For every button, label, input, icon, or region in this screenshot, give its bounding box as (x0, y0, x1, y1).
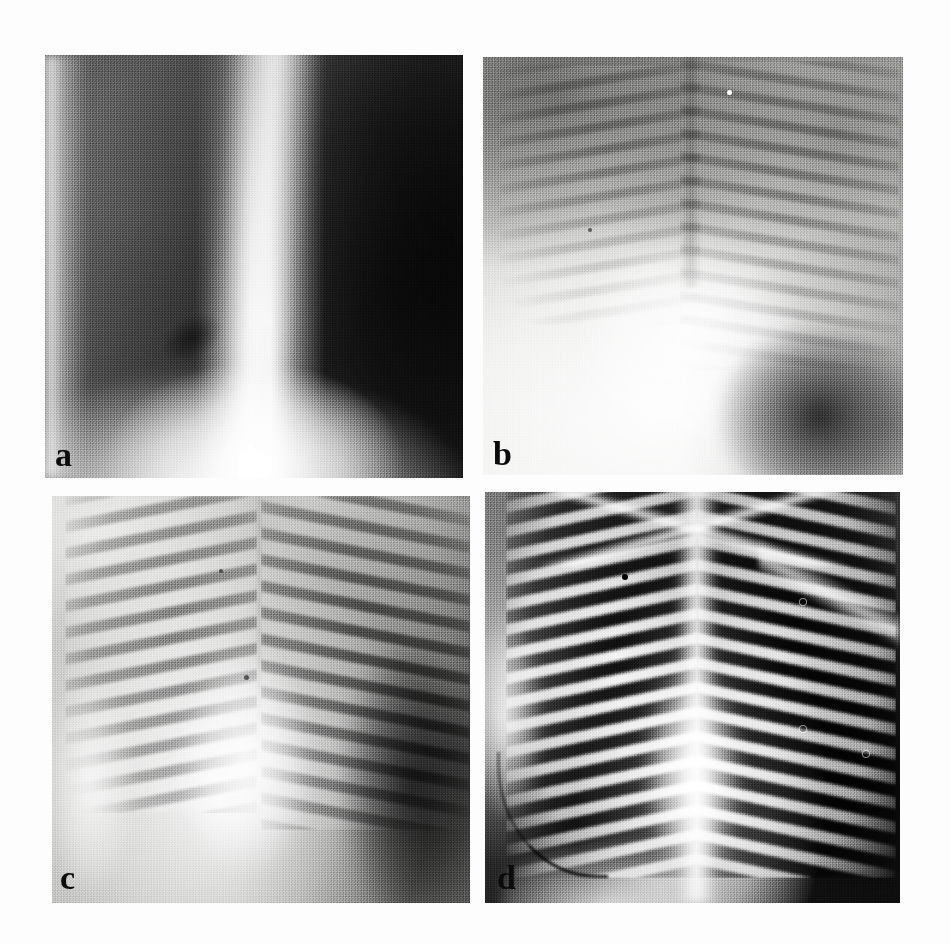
radiograph-panel-b[interactable]: b (483, 57, 903, 475)
radiograph-panel-a[interactable]: a (45, 55, 463, 478)
panel-label-d: d (497, 861, 516, 895)
panel-c-right-lung-field (328, 618, 470, 903)
panel-a-diaphragm (45, 368, 463, 478)
panel-a-left-margin (45, 55, 87, 478)
panel-label-a: a (55, 438, 72, 472)
radiograph-panel-d[interactable]: d (485, 492, 900, 903)
radiograph-figure: a b c (0, 0, 950, 944)
panel-d-ring-marker-3 (863, 751, 869, 757)
panel-b-lower-right-shadow (701, 308, 903, 475)
panel-label-c: c (60, 861, 75, 895)
panel-label-b: b (493, 437, 512, 471)
radiograph-panel-c[interactable]: c (52, 496, 470, 903)
panel-c-cardiac-silhouette (161, 618, 328, 903)
